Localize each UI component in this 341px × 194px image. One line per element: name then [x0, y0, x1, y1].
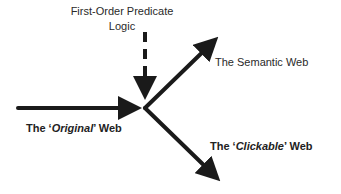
clickable-web-suffix: ’ Web	[284, 140, 313, 152]
clickable-web-emph: Clickable	[236, 140, 284, 152]
predicate-logic-label: First-Order Predicate Logic	[60, 5, 184, 33]
clickable-web-arrow	[145, 108, 216, 177]
predicate-logic-line1: First-Order Predicate	[60, 5, 184, 18]
clickable-web-label: The ‘Clickable’ Web	[210, 140, 313, 153]
semantic-web-label: The Semantic Web	[215, 56, 308, 69]
original-web-prefix: The ‘	[26, 122, 52, 134]
semantic-web-arrow	[145, 41, 214, 108]
clickable-web-prefix: The ‘	[210, 140, 236, 152]
original-web-label: The ‘Original’ Web	[26, 122, 122, 135]
original-web-suffix: ’ Web	[93, 122, 122, 134]
predicate-logic-line2: Logic	[60, 20, 184, 33]
original-web-emph: Original	[52, 122, 94, 134]
